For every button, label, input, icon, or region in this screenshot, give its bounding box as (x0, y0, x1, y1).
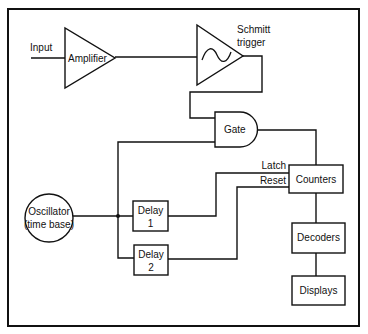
delay1-label-line1: Delay (138, 205, 164, 216)
delay1-block: Delay 1 (133, 201, 168, 231)
schmitt-label-line2: trigger (237, 37, 266, 48)
delay2-label-line2: 2 (148, 262, 154, 273)
amplifier-block: Amplifier (65, 28, 115, 88)
decoders-label: Decoders (297, 232, 340, 243)
amplifier-label: Amplifier (68, 53, 108, 64)
reset-label: Reset (260, 175, 286, 186)
counters-label: Counters (296, 174, 337, 185)
counters-block: Counters (289, 165, 343, 193)
displays-block: Displays (292, 276, 345, 305)
frequency-counter-block-diagram: Input Amplifier Schmitt trigger Gate Osc… (0, 0, 368, 334)
schmitt-trigger-block: Schmitt trigger (197, 24, 271, 85)
displays-label: Displays (300, 285, 338, 296)
latch-label: Latch (262, 160, 286, 171)
delay2-label-line1: Delay (138, 249, 164, 260)
oscillator-label-line1: Oscillator (28, 206, 70, 217)
gate-block: Gate (215, 112, 257, 147)
wire-oscillator-to-gate-and-delay2 (118, 142, 215, 258)
oscillator-circle (25, 194, 73, 242)
oscillator-block: Oscillator (time base) (24, 194, 74, 242)
gate-label: Gate (224, 124, 246, 135)
wire-delay2-reset (168, 187, 289, 259)
delay2-block: Delay 2 (134, 245, 168, 275)
schmitt-label-line1: Schmitt (237, 24, 271, 35)
decoders-block: Decoders (292, 223, 345, 253)
delay1-label-line2: 1 (148, 218, 154, 229)
oscillator-label-line2: (time base) (24, 219, 74, 230)
input-label: Input (30, 42, 52, 53)
junction-dot (116, 214, 120, 218)
